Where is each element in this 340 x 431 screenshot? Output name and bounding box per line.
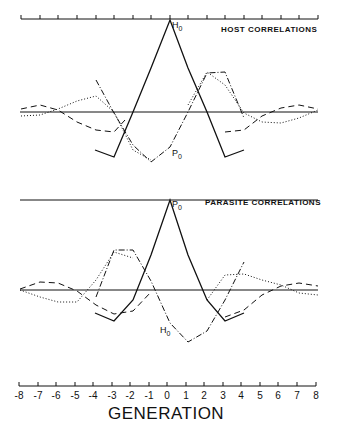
tick-label: 0	[164, 390, 170, 401]
x-axis	[19, 382, 316, 386]
tick-label: -2	[126, 390, 135, 401]
tick-label: 4	[238, 390, 244, 401]
host-dashed-line	[21, 105, 125, 132]
tick-label: -1	[145, 390, 154, 401]
parasite-dotted-line-right	[207, 274, 318, 300]
host-dashed-line-right	[225, 105, 318, 132]
tick-label: 2	[201, 390, 207, 401]
parasite-title: PARASITE CORRELATIONS	[205, 198, 321, 207]
correlation-chart	[0, 0, 340, 431]
parasite-dashed-line	[20, 282, 151, 314]
tick-label: -4	[89, 390, 98, 401]
tick-label: -6	[52, 390, 61, 401]
parasite-autocorrelation-line	[95, 200, 244, 321]
top-ruler	[21, 15, 318, 19]
tick-label: -5	[71, 390, 80, 401]
tick-label: 7	[294, 390, 300, 401]
tick-label: 5	[257, 390, 263, 401]
parasite-cross-label: H0	[160, 325, 170, 337]
host-title: HOST CORRELATIONS	[221, 25, 317, 34]
host-cross-label: P0	[172, 148, 182, 160]
tick-label: -7	[34, 390, 43, 401]
host-dotted-line-right	[188, 72, 318, 123]
tick-label: 3	[220, 390, 226, 401]
parasite-dotted-line	[20, 252, 133, 302]
tick-label: 1	[183, 390, 189, 401]
host-autocorrelation-line	[95, 20, 244, 157]
tick-label: -8	[15, 390, 24, 401]
tick-label: 8	[313, 390, 319, 401]
x-axis-label: GENERATION	[108, 404, 224, 424]
host-peak-label: H0	[172, 20, 182, 32]
tick-label: 6	[275, 390, 281, 401]
parasite-dashed-line-right	[225, 283, 318, 317]
parasite-peak-label: P0	[172, 199, 182, 211]
tick-label: -3	[108, 390, 117, 401]
